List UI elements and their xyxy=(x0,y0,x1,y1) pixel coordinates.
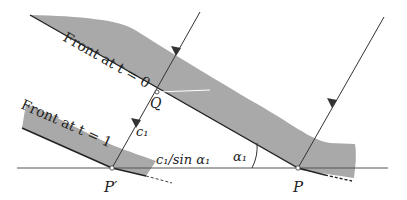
label-point-q: Q xyxy=(150,95,162,111)
label-point-p-prime: P′ xyxy=(103,178,118,196)
label-speed-c1: c₁ xyxy=(136,124,149,139)
label-interface-distance: c₁/sin α₁ xyxy=(156,152,210,167)
label-angle-alpha1: α₁ xyxy=(233,149,247,164)
angle-arc-alpha1 xyxy=(252,143,257,168)
label-point-p: P xyxy=(292,178,304,196)
point-p-marker xyxy=(296,166,300,170)
point-q-marker xyxy=(155,90,159,94)
point-p-prime-marker xyxy=(110,166,114,170)
wavefront-diagram: Front at t = 0 Front at t = 1 Q c₁ c₁/si… xyxy=(0,0,407,200)
refracted-edge-p-prime-dashed xyxy=(146,176,172,183)
